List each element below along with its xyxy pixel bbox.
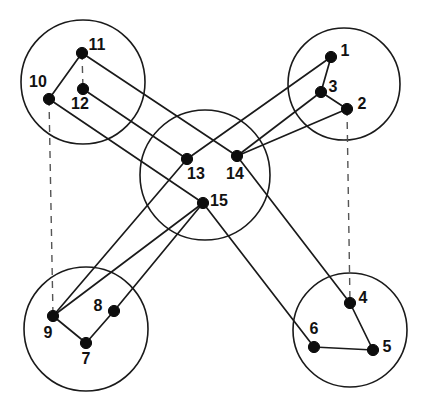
node-11[interactable]	[76, 47, 87, 58]
edge-12-13	[83, 89, 187, 159]
node-5[interactable]	[367, 344, 378, 355]
node-label-9: 9	[44, 324, 53, 341]
node-7[interactable]	[80, 337, 91, 348]
node-label-3: 3	[329, 78, 338, 95]
edge-1-13	[187, 57, 331, 159]
edge-15-8	[114, 203, 203, 311]
node-6[interactable]	[308, 341, 319, 352]
node-8[interactable]	[108, 305, 119, 316]
node-label-6: 6	[310, 320, 319, 337]
node-14[interactable]	[231, 150, 242, 161]
node-3[interactable]	[315, 86, 326, 97]
node-label-4: 4	[359, 289, 368, 306]
graph-canvas: 123456789101112131415	[0, 0, 433, 409]
edge-2-4-dashed	[347, 109, 350, 303]
node-1[interactable]	[325, 51, 336, 62]
edge-6-5	[314, 347, 373, 350]
node-label-7: 7	[82, 350, 91, 367]
edge-11-10	[49, 53, 82, 99]
node-label-13: 13	[187, 165, 205, 182]
node-label-10: 10	[29, 73, 47, 90]
edge-15-9	[53, 203, 203, 316]
node-label-15: 15	[210, 192, 228, 209]
node-12[interactable]	[77, 83, 88, 94]
edge-13-9	[53, 159, 187, 316]
center-cluster	[140, 110, 270, 240]
node-13[interactable]	[181, 153, 192, 164]
edge-15-6	[203, 203, 314, 347]
node-label-12: 12	[71, 95, 89, 112]
edge-10-9-dashed	[49, 99, 53, 316]
edge-7-8	[86, 311, 114, 343]
edge-9-7	[53, 316, 86, 343]
edge-14-4	[237, 156, 350, 303]
graph-figure: 123456789101112131415	[0, 0, 433, 409]
dashed-edges-layer	[49, 53, 350, 316]
node-10[interactable]	[43, 93, 54, 104]
node-label-2: 2	[358, 95, 367, 112]
node-label-8: 8	[94, 297, 103, 314]
node-2[interactable]	[341, 103, 352, 114]
node-4[interactable]	[344, 297, 355, 308]
node-label-1: 1	[341, 42, 350, 59]
edge-3-14	[237, 92, 321, 156]
edge-4-5	[350, 303, 373, 350]
node-9[interactable]	[47, 310, 58, 321]
node-label-5: 5	[383, 338, 392, 355]
node-label-11: 11	[89, 36, 106, 53]
node-15[interactable]	[197, 197, 208, 208]
node-label-14: 14	[226, 165, 244, 182]
